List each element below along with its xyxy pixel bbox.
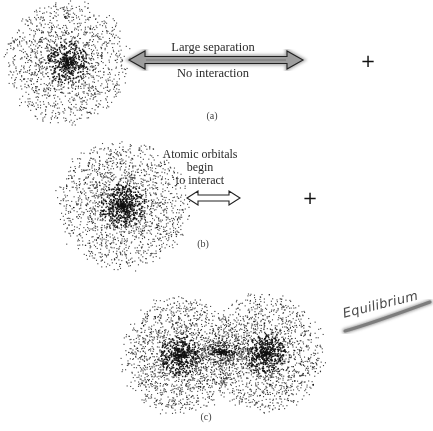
caption-a: (a) bbox=[206, 110, 217, 121]
label-line-3: to interact bbox=[163, 174, 238, 187]
label-large-separation: Large separation bbox=[171, 41, 254, 54]
nucleus-plus-icon-b: + bbox=[302, 189, 317, 207]
caption-c: (c) bbox=[200, 411, 211, 422]
nucleus-plus-icon-a: + bbox=[360, 52, 375, 70]
hollow-double-arrow-icon bbox=[187, 191, 240, 205]
label-orbitals-interact: Atomic orbitals begin to interact bbox=[163, 148, 238, 187]
caption-b: (b) bbox=[197, 238, 209, 249]
label-no-interaction: No interaction bbox=[177, 67, 249, 80]
